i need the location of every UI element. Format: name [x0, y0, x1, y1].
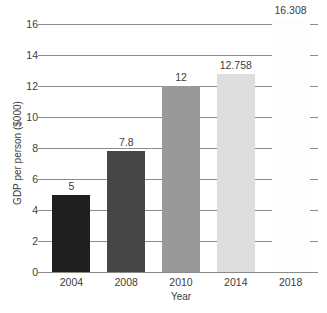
y-axis-tick-label: 4: [4, 205, 38, 216]
plot-area: [44, 24, 318, 272]
y-axis-tick-label: 16: [4, 19, 38, 30]
x-axis-tick-label: 2008: [99, 277, 154, 288]
bar-value-label: 5: [44, 181, 99, 192]
bar-value-label: 16.308: [263, 5, 318, 16]
x-axis-tick-label: 2018: [263, 277, 318, 288]
x-axis-title: Year: [44, 292, 318, 302]
bar: [272, 19, 310, 272]
x-axis-tick-label: 2004: [44, 277, 99, 288]
gridline: [44, 272, 318, 273]
y-axis-tick-label: 14: [4, 50, 38, 61]
x-axis-tick-label: 2010: [154, 277, 209, 288]
y-axis-tick-label: 12: [4, 81, 38, 92]
bar: [107, 151, 145, 272]
bar: [217, 74, 255, 272]
y-axis-tick-label: 2: [4, 236, 38, 247]
bar-value-label: 7.8: [99, 137, 154, 148]
y-axis-tick-label: 8: [4, 143, 38, 154]
y-axis-tick-label: 10: [4, 112, 38, 123]
bar-value-label: 12.758: [208, 60, 263, 71]
bar: [52, 195, 90, 273]
bar-chart: GDP per person ($000) 0246810121416 57.8…: [0, 0, 327, 313]
bar: [162, 86, 200, 272]
bar-value-label: 12: [154, 72, 209, 83]
y-axis-tick-label: 6: [4, 174, 38, 185]
y-axis-tick-label: 0: [4, 267, 38, 278]
x-axis-tick-label: 2014: [208, 277, 263, 288]
